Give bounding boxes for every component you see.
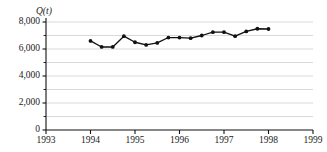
- y-axis-tick-label: 2,000: [0, 98, 40, 108]
- y-axis-tick-label: 4,000: [0, 71, 40, 81]
- x-axis-ticks: [46, 130, 313, 134]
- data-point: [133, 40, 137, 44]
- data-point: [244, 30, 248, 34]
- data-point: [233, 34, 237, 38]
- data-point: [100, 45, 104, 49]
- data-point: [189, 36, 193, 40]
- y-axis-tick-label: 0: [0, 125, 40, 135]
- data-point: [89, 39, 93, 43]
- x-axis-tick-label: 1996: [160, 136, 200, 146]
- data-point: [111, 45, 115, 49]
- data-point: [255, 27, 259, 31]
- x-axis-tick-label: 1998: [249, 136, 289, 146]
- data-point: [267, 27, 271, 31]
- x-axis-tick-label: 1993: [26, 136, 66, 146]
- x-axis-tick-label: 1999: [293, 136, 327, 146]
- data-point: [200, 34, 204, 38]
- data-series: [89, 27, 271, 49]
- data-point: [222, 30, 226, 34]
- data-point: [211, 30, 215, 34]
- axis-lines: [46, 18, 313, 130]
- x-axis-tick-label: 1997: [204, 136, 244, 146]
- data-point: [155, 41, 159, 45]
- x-axis-tick-label: 1995: [115, 136, 155, 146]
- y-axis-tick-label: 8,000: [0, 17, 40, 27]
- data-point: [122, 34, 126, 38]
- y-axis-tick-label: 6,000: [0, 44, 40, 54]
- data-point: [178, 36, 182, 40]
- data-point: [144, 43, 148, 47]
- x-axis-tick-label: 1994: [71, 136, 111, 146]
- data-point: [166, 36, 170, 40]
